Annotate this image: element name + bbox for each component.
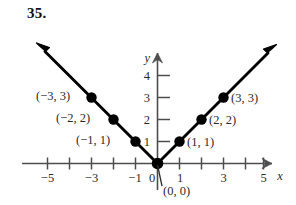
data-point-3-3[interactable] [218,92,228,102]
y-axis-label-1: 1 [144,135,150,149]
data-point-2-2[interactable] [196,114,206,124]
x-axis-label-3: 3 [220,171,226,185]
point-label-1-1: (1, 1) [187,135,214,149]
x-axis-title: x [276,169,283,183]
data-point-neg2-2[interactable] [108,114,118,124]
x-axis-label-0: 0 [149,171,155,185]
point-label-neg3-3: (−3, 3) [36,89,70,103]
point-label-2-2: (2, 2) [209,113,236,127]
x-axis-label-5: 5 [260,171,266,185]
x-axis-label-neg3: −3 [85,171,98,185]
x-axis-label-1: 1 [177,171,183,185]
x-axis-label-neg5: −5 [41,171,54,185]
point-label-0-0: (0, 0) [163,184,190,198]
point-label-neg2-2: (−2, 2) [56,111,90,125]
data-point-neg1-1[interactable] [130,136,140,146]
y-axis-label-3: 3 [144,91,150,105]
y-axis-label-4: 4 [144,69,151,83]
y-axis-title: y [142,51,150,65]
y-axis-label-2: 2 [144,113,150,127]
curve-right-arrowhead [264,45,277,53]
point-label-3-3: (3, 3) [231,91,258,105]
point-label-neg1-1: (−1, 1) [76,133,110,147]
curve-left-arrowhead [37,43,50,51]
figure-container: 35. [0,0,296,205]
coordinate-plane-plot: (−3, 3) (−2, 2) (−1, 1) (0, 0) (1, 1) (2… [0,0,296,205]
data-point-neg3-3[interactable] [86,92,96,102]
x-axis-label-neg1: −1 [128,171,141,185]
y-axis-ticks [158,76,171,142]
data-point-1-1[interactable] [174,136,184,146]
